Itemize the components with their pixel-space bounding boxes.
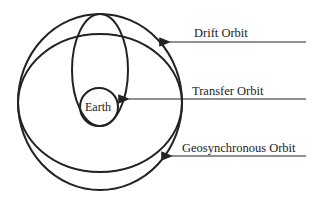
orbit-diagram: Earth Drift Orbit Transfer Orbit Geosync… [0, 0, 322, 202]
earth-label: Earth [85, 101, 111, 113]
geosynchronous-orbit-label: Geosynchronous Orbit [182, 142, 296, 155]
orbit-diagram-svg [0, 0, 322, 202]
drift-orbit-label: Drift Orbit [194, 27, 248, 40]
transfer-orbit-label: Transfer Orbit [192, 85, 263, 98]
